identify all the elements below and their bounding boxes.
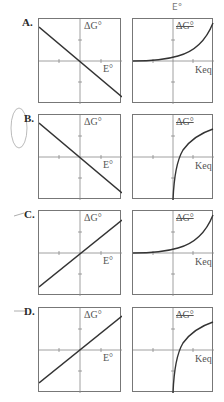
x-axis-label: Keq — [195, 160, 212, 171]
option-d-right-graph: ΔG° Keq — [132, 307, 213, 392]
option-b-left-graph: ΔG° E° — [38, 114, 121, 199]
graph-axes — [39, 211, 122, 296]
x-axis-label: Keq — [195, 353, 212, 364]
option-a-left-graph: ΔG° E° — [38, 18, 121, 103]
option-a-right-graph: ΔG° Keq — [132, 18, 213, 103]
option-d-left-graph: ΔG° E° — [38, 307, 121, 392]
x-axis-label: Keq — [195, 256, 212, 267]
y-axis-label-struck: ΔG° — [176, 309, 194, 320]
y-axis-label-struck: ΔG° — [176, 116, 194, 127]
curve-line-increasing — [39, 220, 122, 287]
graph-axes — [133, 308, 214, 393]
y-axis-label: ΔG° — [84, 309, 102, 320]
x-axis-label: E° — [103, 255, 113, 266]
graph-axes — [133, 211, 214, 296]
curve-line-increasing — [39, 316, 122, 383]
y-axis-label: ΔG° — [84, 20, 102, 31]
option-c-label: C. — [24, 208, 35, 220]
x-axis-label: E° — [103, 63, 113, 74]
curve-line-decreasing — [39, 27, 122, 97]
option-c-right-graph: ΔG° Keq — [132, 210, 213, 295]
handwritten-annotation: E° — [172, 2, 182, 12]
graph-axes — [133, 19, 214, 104]
option-a-label: A. — [22, 16, 33, 28]
y-axis-label-struck: ΔG° — [176, 20, 194, 31]
y-axis-label: ΔG° — [84, 212, 102, 223]
curve-line-decreasing — [39, 123, 122, 193]
option-c-left-graph: ΔG° E° — [38, 210, 121, 295]
x-axis-label: E° — [103, 159, 113, 170]
graph-axes — [39, 308, 122, 393]
x-axis-label: E° — [103, 352, 113, 363]
y-axis-label: ΔG° — [84, 116, 102, 127]
graph-axes — [133, 115, 214, 200]
y-axis-label-struck: ΔG° — [176, 212, 194, 223]
graph-axes — [39, 19, 122, 104]
option-d-label: D. — [24, 305, 35, 317]
graph-axes — [39, 115, 122, 200]
option-b-right-graph: ΔG° Keq — [132, 114, 213, 199]
x-axis-label: Keq — [195, 64, 212, 75]
option-b-label: B. — [24, 112, 34, 124]
